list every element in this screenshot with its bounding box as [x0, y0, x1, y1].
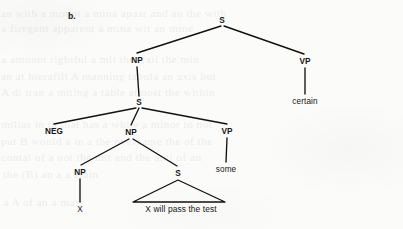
tree-node-certain: certain: [292, 97, 317, 106]
tree-node-s-3: S: [175, 169, 181, 178]
tree-edge-s-root-to-vp-1: [224, 26, 304, 54]
tree-edge-s-2-to-np-2: [131, 108, 139, 125]
tree-node-some: some: [216, 165, 236, 174]
tree-node-neg: NEG: [45, 127, 63, 136]
tree-node-vp-2: VP: [221, 127, 232, 136]
tree-node-s-root: S: [219, 16, 225, 25]
tree-node-np-2: NP: [125, 128, 137, 137]
tree-edge-s-2-to-neg: [54, 108, 136, 124]
syntax-tree-lines: [0, 0, 403, 229]
tree-edge-np-2-to-np-3: [81, 139, 129, 165]
figure-label: b.: [68, 11, 76, 21]
tree-node-np-1: NP: [131, 56, 143, 65]
tree-edge-np-2-to-s-3: [133, 139, 177, 166]
tree-node-x: X: [77, 205, 83, 214]
tree-edge-s-2-to-vp-2: [142, 108, 227, 124]
tree-node-sentence: X will pass the test: [145, 204, 216, 214]
tree-edge-s-root-to-np-1: [137, 26, 221, 53]
tree-triangle-group: [133, 180, 225, 202]
figure-page: an with a mount a mina apasr and an the …: [0, 0, 403, 229]
tree-node-vp-1: VP: [299, 57, 310, 66]
tree-edge-vp-2-to-some: [226, 138, 227, 162]
tree-node-s-2: S: [136, 98, 142, 107]
tree-edge-np-1-to-s-2: [137, 67, 139, 96]
tree-triangle-s-3: [133, 180, 225, 202]
tree-node-np-3: NP: [74, 168, 86, 177]
